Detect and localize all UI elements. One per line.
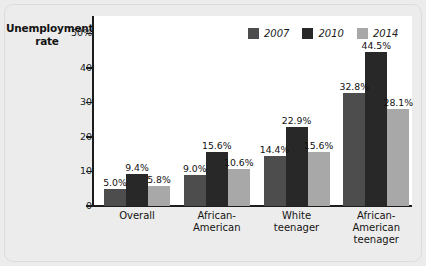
bar[interactable] [184, 175, 206, 206]
bar-value-label: 15.6% [298, 140, 340, 151]
bar[interactable] [104, 189, 126, 206]
y-axis-tick [86, 205, 93, 206]
bar-value-label: 15.6% [196, 140, 238, 151]
y-axis-tick [86, 136, 93, 137]
bar-value-label: 10.6% [218, 157, 260, 168]
bar-value-label: 5.8% [138, 174, 180, 185]
y-axis-tick [86, 67, 93, 68]
bar-value-label: 5.0% [94, 177, 136, 188]
bar[interactable] [264, 156, 286, 206]
bar[interactable] [343, 93, 365, 206]
x-axis-category-line: teenager [328, 234, 424, 246]
bar-value-label: 44.5% [355, 40, 397, 51]
bar-value-label: 28.1% [377, 97, 419, 108]
bar-value-label: 22.9% [276, 115, 318, 126]
y-axis-tick [86, 171, 93, 172]
bar[interactable] [148, 186, 170, 206]
bar-value-label: 32.8% [333, 81, 375, 92]
bar[interactable] [286, 127, 308, 206]
y-axis-tick [86, 102, 93, 103]
x-axis-category-label: African-Americanteenager [328, 210, 424, 246]
bar-group [184, 16, 250, 206]
bar-value-label: 14.4% [254, 144, 296, 155]
bar[interactable] [387, 109, 409, 206]
bar-value-label: 9.0% [174, 163, 216, 174]
x-axis-category-line: African- [328, 210, 424, 222]
bar[interactable] [365, 52, 387, 206]
chart-figure: Unemployment rate 50%403020100 200720102… [0, 0, 426, 266]
bar-value-label: 9.4% [116, 162, 158, 173]
bar[interactable] [228, 169, 250, 206]
bar[interactable] [308, 152, 330, 206]
bar-group [264, 16, 330, 206]
x-axis-category-line: American [328, 222, 424, 234]
y-axis-tick [86, 33, 93, 34]
y-axis: 50%403020100 [34, 0, 92, 266]
